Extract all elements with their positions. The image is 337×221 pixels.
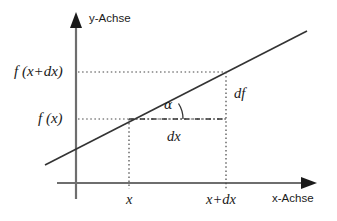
angle-arc [179,104,184,120]
y-value-label-f-x: f (x) [38,111,63,126]
run-dx-label: dx [167,129,181,144]
function-line [45,31,307,165]
x-tick-label-x: x [126,192,132,207]
y-axis-arrowhead [70,12,82,28]
y-value-label-f-x-plus-dx: f (x+dx) [14,64,63,79]
angle-alpha-label: α [164,99,172,112]
x-axis-arrowhead [301,177,317,189]
rise-df-label: df [234,86,245,101]
y-axis-label: y-Achse [89,13,131,25]
derivative-diagram: f (x+dx) f (x) y-Achse x-Achse α dx df x… [0,0,337,221]
x-tick-label-x-plus-dx: x+dx [206,192,236,207]
x-axis-label: x-Achse [272,193,314,205]
